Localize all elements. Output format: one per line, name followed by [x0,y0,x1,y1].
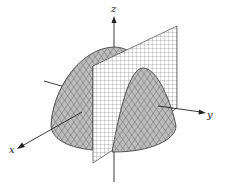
z-axis-arrow-icon [112,16,117,23]
y-axis-arrow-icon [199,110,207,115]
paraboloid-diagram: z y x [0,0,226,190]
x-axis-label: x [9,144,15,155]
x-axis-arrow-icon [17,143,25,150]
y-axis-label: y [206,109,213,120]
z-axis-label: z [110,3,117,14]
